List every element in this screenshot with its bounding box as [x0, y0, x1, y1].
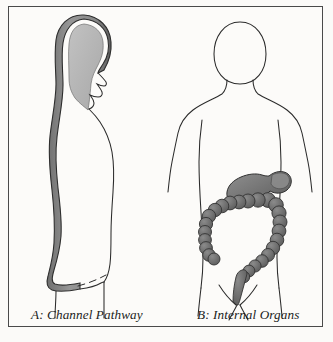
buttock-curve: [80, 282, 104, 289]
neck-and-chest-front-line: [89, 109, 114, 282]
panel-a-group: [47, 15, 114, 318]
hip-dashed-line: [78, 275, 106, 286]
stomach-fundus-shade: [271, 173, 289, 189]
rectum: [233, 270, 247, 305]
caption-row: A: Channel Pathway B: Internal Organs: [9, 303, 322, 327]
caption-panel-a: A: Channel Pathway: [31, 307, 143, 323]
anatomical-figure-illustration: [0, 0, 333, 342]
neck-shoulder-arm-left: [168, 80, 227, 192]
caption-panel-b: B: Internal Organs: [197, 307, 299, 323]
figure-root: A: Channel Pathway B: Internal Organs: [0, 0, 333, 342]
panel-b-group: [168, 22, 312, 320]
head-outline: [214, 22, 266, 84]
large-intestine: [199, 193, 288, 283]
torso-left-line: [199, 120, 203, 288]
